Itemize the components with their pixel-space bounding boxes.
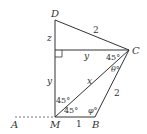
label-z: z <box>46 33 52 43</box>
label-DC-length: 2 <box>93 25 99 35</box>
angle-C-upper: 45° <box>106 53 120 62</box>
label-y-vertical: y <box>46 76 53 86</box>
segment-DC <box>55 20 129 50</box>
angle-M-upper: 45° <box>56 96 70 105</box>
label-A: A <box>10 119 18 130</box>
angle-C-theta: θ° <box>111 65 120 74</box>
label-x: x <box>87 76 92 86</box>
angle-B-phi: φ° <box>88 106 98 115</box>
label-B: B <box>91 119 99 130</box>
label-M: M <box>49 119 61 130</box>
label-BC-length: 2 <box>114 88 120 98</box>
angle-M-lower: 45° <box>64 106 78 115</box>
label-C: C <box>132 45 140 56</box>
label-y-horizontal: y <box>83 51 90 61</box>
label-D: D <box>50 8 59 19</box>
right-angle-mark <box>55 50 62 57</box>
geometry-diagram: D C M B A 2 z y y x 2 1 45° θ° 45° 45° φ… <box>0 0 147 134</box>
label-MB-length: 1 <box>76 119 82 129</box>
